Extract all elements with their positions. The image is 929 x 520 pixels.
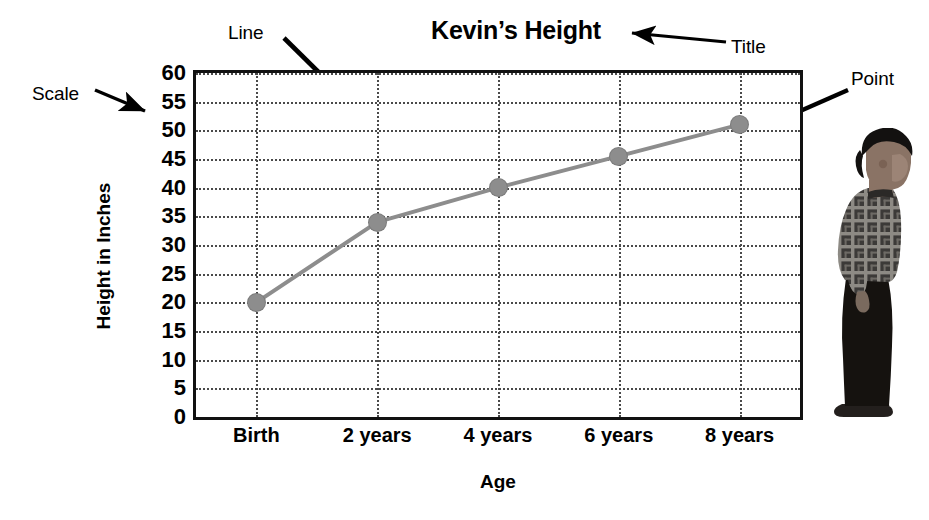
chart-title: Kevin’s Height [386, 16, 646, 45]
y-axis-tick-label: 15 [162, 318, 186, 344]
annotation-label-title: Title [731, 36, 766, 58]
boy-profile-photo [812, 128, 926, 422]
y-axis-tick-label: 55 [162, 89, 186, 115]
y-axis-tick-label: 50 [162, 117, 186, 143]
x-axis-tick-label: Birth [233, 424, 280, 447]
x-axis-tick-label: 6 years [584, 424, 653, 447]
boy-profile-illustration [812, 128, 926, 422]
data-point[interactable] [490, 179, 507, 196]
plot-area: 051015202530354045505560Birth2 years4 ye… [193, 70, 803, 420]
x-axis-tick-label: 4 years [464, 424, 533, 447]
y-axis-tick-label: 30 [162, 232, 186, 258]
data-point[interactable] [248, 294, 265, 311]
x-axis-title: Age [193, 471, 803, 493]
y-axis-tick-label: 60 [162, 60, 186, 86]
y-axis-tick-label: 5 [174, 375, 186, 401]
data-line-path [256, 125, 739, 303]
y-axis-title: Height in Inches [93, 141, 115, 371]
data-point[interactable] [369, 214, 386, 231]
annotation-label-line: Line [228, 22, 264, 44]
x-axis-tick-label: 8 years [705, 424, 774, 447]
y-axis-tick-label: 35 [162, 203, 186, 229]
y-axis-tick-label: 40 [162, 175, 186, 201]
annotation-arrow-scale [95, 90, 145, 111]
annotation-label-point: Point [851, 68, 894, 90]
data-point[interactable] [610, 148, 627, 165]
y-axis-tick-label: 10 [162, 347, 186, 373]
annotation-label-scale: Scale [32, 83, 79, 105]
x-axis-tick-label: 2 years [343, 424, 412, 447]
data-line [196, 73, 800, 417]
annotation-arrow-title [632, 33, 726, 42]
plot-inner: 051015202530354045505560Birth2 years4 ye… [196, 73, 800, 417]
y-axis-tick-label: 45 [162, 146, 186, 172]
chart-figure: Kevin’s Height Height in Inches Age Scal… [0, 0, 929, 520]
y-axis-tick-label: 20 [162, 289, 186, 315]
y-axis-tick-label: 25 [162, 261, 186, 287]
y-axis-tick-label: 0 [174, 404, 186, 430]
